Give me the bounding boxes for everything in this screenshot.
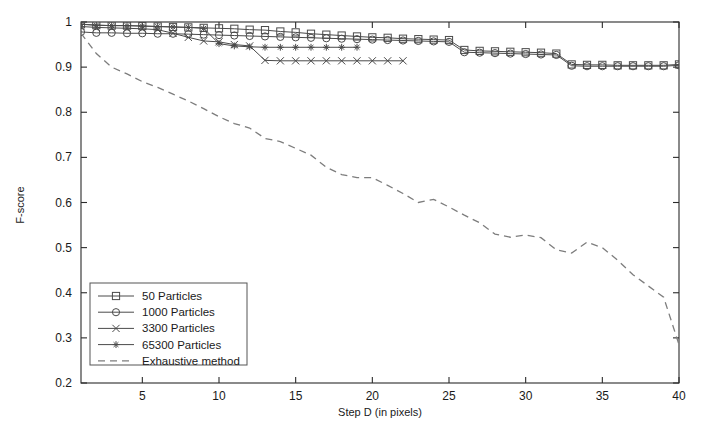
chart-figure: 5101520253035400.20.30.40.50.60.70.80.91… <box>0 0 719 434</box>
x-tick-label: 20 <box>366 389 380 403</box>
y-tick-label: 0.4 <box>55 286 72 300</box>
y-tick-label: 0.5 <box>55 241 72 255</box>
x-axis-title: Step D (in pixels) <box>338 406 422 418</box>
legend-label-1: 1000 Particles <box>142 306 215 318</box>
chart-canvas: 5101520253035400.20.30.40.50.60.70.80.91… <box>0 0 719 434</box>
legend-label-3: 65300 Particles <box>142 339 222 351</box>
x-tick-label: 5 <box>139 389 146 403</box>
x-tick-label: 15 <box>289 389 303 403</box>
y-tick-label: 0.2 <box>55 376 72 390</box>
x-tick-label: 25 <box>442 389 456 403</box>
legend-label-2: 3300 Particles <box>142 322 215 334</box>
y-tick-label: 0.7 <box>55 150 72 164</box>
x-tick-label: 40 <box>672 389 686 403</box>
y-tick-label: 0.6 <box>55 196 72 210</box>
legend-label-4: Exhaustive method <box>142 355 240 367</box>
x-tick-label: 10 <box>212 389 226 403</box>
y-tick-label: 0.3 <box>55 331 72 345</box>
y-tick-label: 1 <box>65 15 72 29</box>
legend-layer: 50 Particles1000 Particles3300 Particles… <box>90 283 247 367</box>
y-tick-label: 0.8 <box>55 105 72 119</box>
x-tick-label: 30 <box>519 389 533 403</box>
x-tick-label: 35 <box>596 389 610 403</box>
y-axis-title: F-score <box>14 186 26 223</box>
legend-label-0: 50 Particles <box>142 290 202 302</box>
y-tick-label: 0.9 <box>55 60 72 74</box>
